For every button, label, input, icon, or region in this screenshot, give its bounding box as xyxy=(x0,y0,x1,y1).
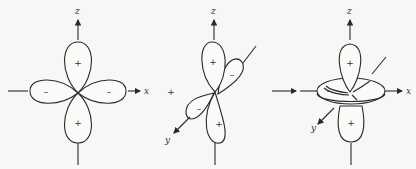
z-axis-label: z xyxy=(210,6,216,16)
y-axis-arrow xyxy=(318,108,334,124)
orbital-2: z y + – – + xyxy=(164,6,256,165)
y-axis-arrow xyxy=(174,117,190,133)
y-axis-label: y xyxy=(310,123,317,133)
sign-upper-right: – xyxy=(230,70,235,80)
x-axis-label: x xyxy=(406,86,411,96)
x-axis-label: x xyxy=(144,86,149,96)
y-axis-label: y xyxy=(164,135,171,145)
sign-ring: – xyxy=(327,86,332,96)
sign-top: + xyxy=(346,58,354,68)
orbital-3: z x y + + – xyxy=(272,6,411,165)
sign-lower-left: – xyxy=(197,104,202,114)
z-axis-label: z xyxy=(74,6,80,16)
orbital-1: z x + + – – xyxy=(8,6,149,165)
sign-right: – xyxy=(107,87,112,97)
sign-lower: + xyxy=(215,119,223,129)
sign-bottom: + xyxy=(347,118,355,128)
y-axis-upper xyxy=(372,57,386,74)
plus-separator: + xyxy=(167,87,175,97)
sign-bottom: + xyxy=(74,118,82,128)
sign-upper: + xyxy=(209,57,217,67)
sign-left: – xyxy=(44,87,49,97)
z-axis-label: z xyxy=(346,6,352,16)
orbital-diagram: z x + + – – + z y + – – + z xyxy=(0,0,416,169)
sign-top: + xyxy=(74,58,82,68)
